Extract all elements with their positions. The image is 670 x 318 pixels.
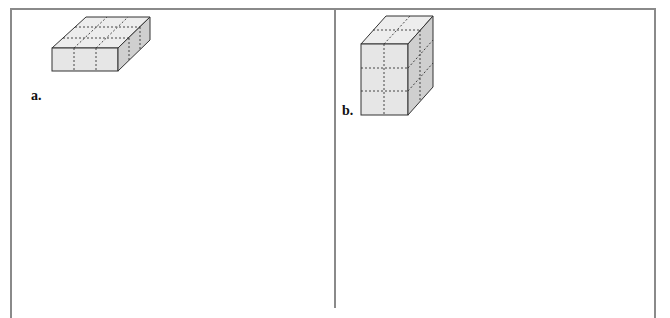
- prism-b-figure: [0, 0, 670, 304]
